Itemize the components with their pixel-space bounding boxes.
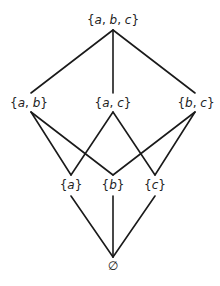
node-bc: {b, c} xyxy=(177,96,214,110)
node-ac: {a, c} xyxy=(95,96,132,110)
edge-ab-a xyxy=(31,112,71,175)
hasse-diagram xyxy=(0,0,220,286)
edge-bc-c xyxy=(155,112,195,175)
node-abc: {a, b, c} xyxy=(87,13,139,27)
edge-abc-bc xyxy=(113,30,195,93)
node-a: {a} xyxy=(60,178,83,192)
edge-c-empty xyxy=(113,196,155,257)
edge-a-empty xyxy=(71,196,113,257)
edge-ac-a xyxy=(71,112,113,175)
node-empty-set: ∅ xyxy=(108,259,118,273)
edge-abc-ab xyxy=(31,30,113,93)
edge-bc-b xyxy=(113,112,195,175)
edges xyxy=(31,30,195,257)
node-b: {b} xyxy=(102,178,125,192)
node-ab: {a, b} xyxy=(10,96,48,110)
edge-ab-b xyxy=(31,112,113,175)
node-c: {c} xyxy=(144,178,166,192)
edge-ac-c xyxy=(113,112,155,175)
